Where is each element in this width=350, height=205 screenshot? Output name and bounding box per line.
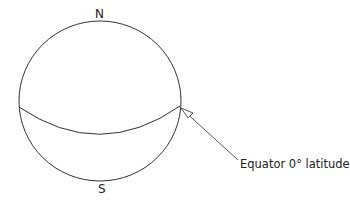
sphere-outline [19, 21, 181, 181]
equator-line [19, 106, 180, 134]
south-label: S [98, 183, 106, 195]
north-label: N [95, 8, 104, 20]
pointer-line [183, 110, 238, 160]
equator-label: Equator 0° latitude [240, 159, 350, 171]
arrowhead-icon [181, 108, 193, 118]
